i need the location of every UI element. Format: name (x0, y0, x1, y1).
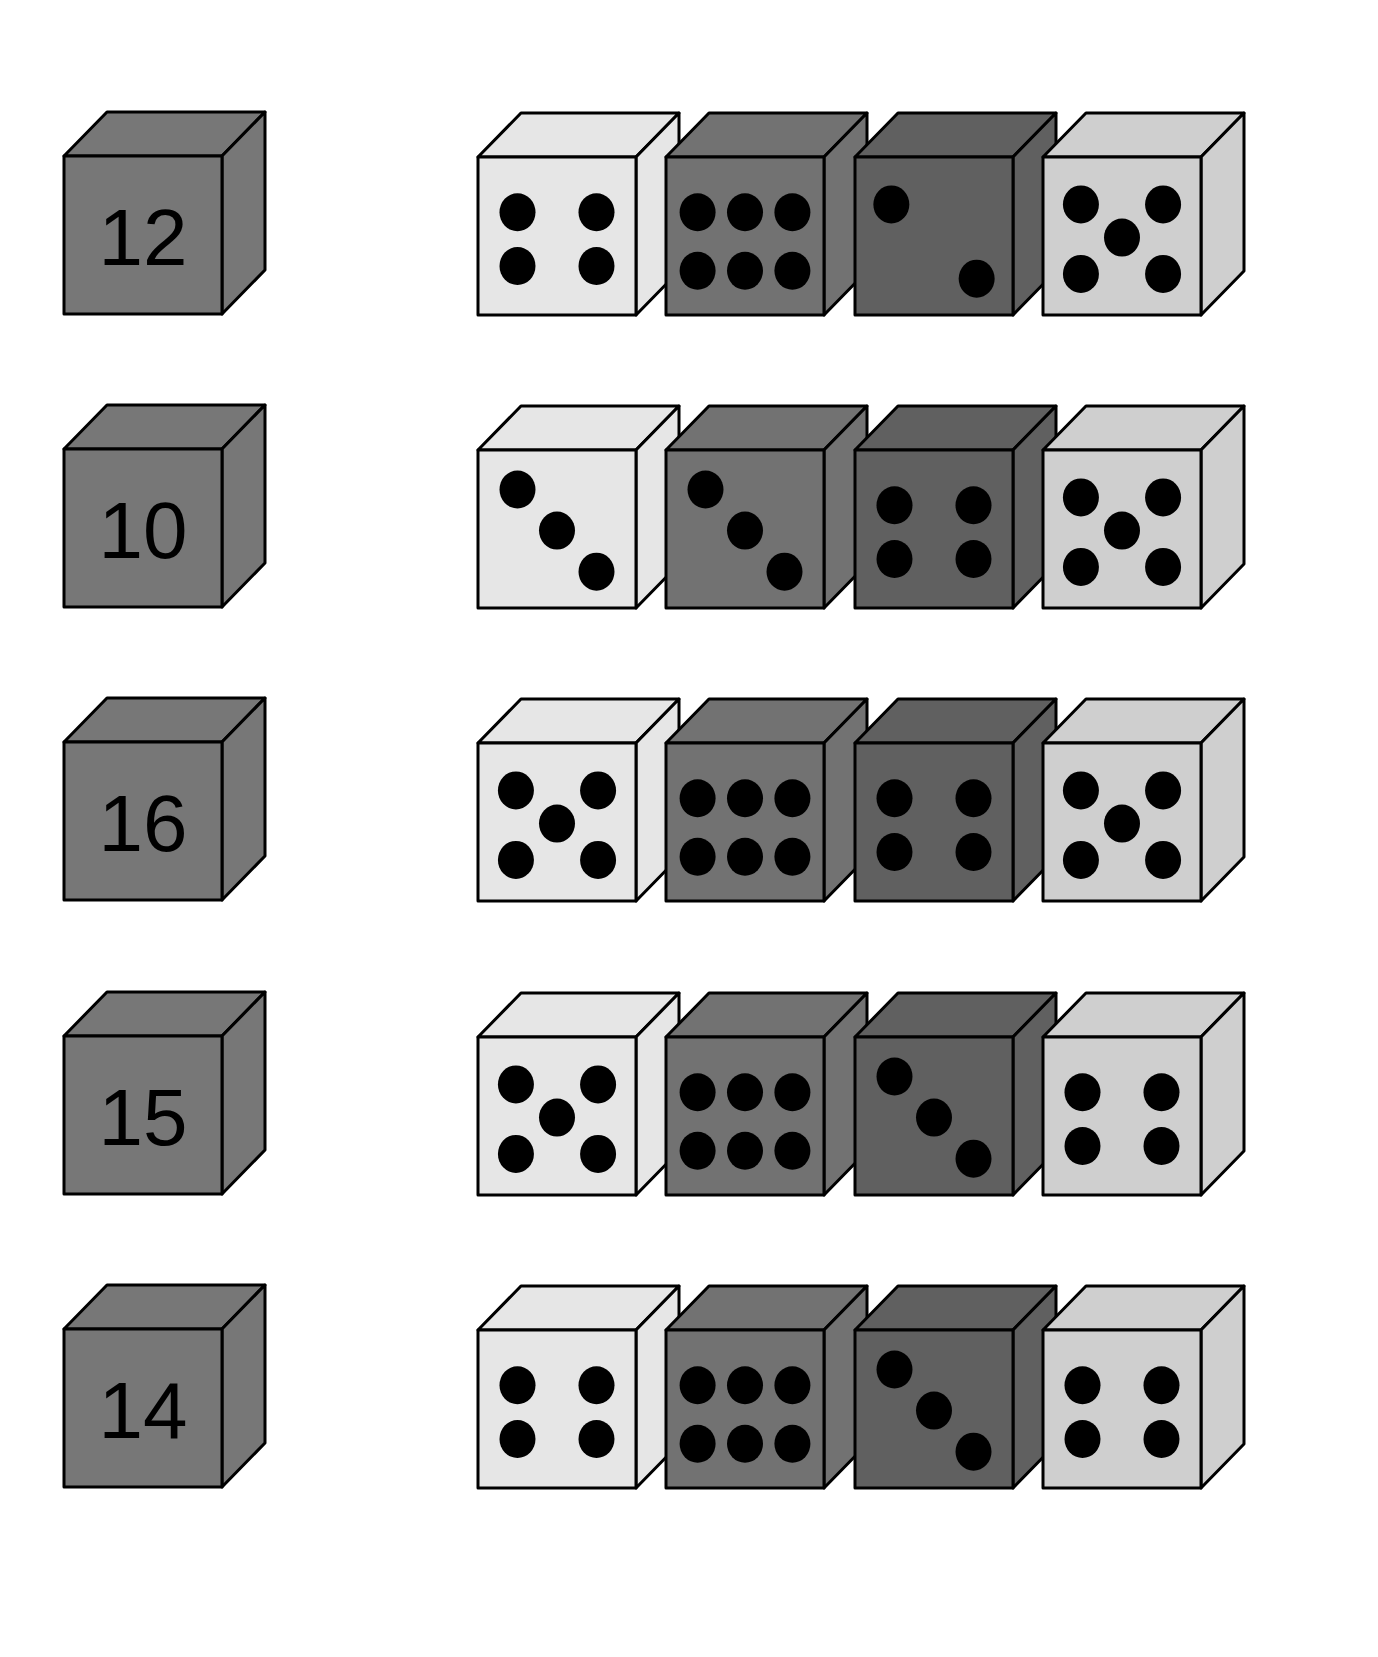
pip-icon (539, 512, 575, 550)
pip-icon (500, 1366, 536, 1404)
pip-icon (1145, 841, 1181, 879)
pip-icon (727, 1073, 763, 1111)
pip-icon (774, 779, 810, 817)
pip-icon (1145, 478, 1181, 516)
pip-icon (727, 512, 763, 550)
pip-icon (680, 1132, 716, 1170)
pip-icon (580, 771, 616, 809)
pip-icon (959, 260, 995, 298)
pip-icon (688, 471, 724, 509)
pip-icon (579, 1366, 615, 1404)
die-3 (664, 404, 869, 610)
total-label: 16 (64, 784, 222, 864)
total-label: 10 (64, 491, 222, 571)
pip-icon (1065, 1127, 1101, 1165)
pip-icon (1063, 255, 1099, 293)
die-5 (1041, 404, 1246, 610)
pip-icon (727, 1366, 763, 1404)
pip-icon (498, 841, 534, 879)
total-cube: 14 (62, 1283, 267, 1489)
pip-icon (680, 1425, 716, 1463)
pip-icon (877, 779, 913, 817)
pip-icon (916, 1099, 952, 1137)
total-cube: 10 (62, 403, 267, 609)
pip-icon (916, 1392, 952, 1430)
pip-icon (579, 553, 615, 591)
pip-icon (1144, 1127, 1180, 1165)
pip-icon (727, 252, 763, 290)
pip-icon (580, 1065, 616, 1103)
pip-icon (877, 1351, 913, 1389)
pip-icon (498, 1135, 534, 1173)
pip-icon (956, 1140, 992, 1178)
pip-icon (956, 779, 992, 817)
total-label: 15 (64, 1078, 222, 1158)
pip-icon (1145, 548, 1181, 586)
pip-icon (680, 1073, 716, 1111)
pip-icon (1145, 771, 1181, 809)
die-3 (853, 991, 1058, 1197)
pip-icon (1104, 512, 1140, 550)
pip-icon (877, 833, 913, 871)
die-5 (476, 697, 681, 903)
pip-icon (1063, 478, 1099, 516)
die-3 (853, 1284, 1058, 1490)
pip-icon (539, 805, 575, 843)
pip-icon (579, 247, 615, 285)
total-cube: 15 (62, 990, 267, 1196)
pip-icon (877, 486, 913, 524)
die-6 (664, 697, 869, 903)
pip-icon (1145, 255, 1181, 293)
pip-icon (498, 1065, 534, 1103)
die-6 (664, 1284, 869, 1490)
pip-icon (956, 1433, 992, 1471)
die-6 (664, 991, 869, 1197)
pip-icon (774, 1425, 810, 1463)
pip-icon (1144, 1366, 1180, 1404)
pip-icon (1104, 805, 1140, 843)
pip-icon (1065, 1073, 1101, 1111)
pip-icon (500, 1420, 536, 1458)
pip-icon (680, 1366, 716, 1404)
pip-icon (956, 486, 992, 524)
pip-icon (877, 540, 913, 578)
pip-icon (877, 1058, 913, 1096)
total-cube: 16 (62, 696, 267, 902)
pip-icon (579, 1420, 615, 1458)
pip-icon (539, 1099, 575, 1137)
pip-icon (774, 1366, 810, 1404)
pip-icon (727, 779, 763, 817)
die-5 (1041, 697, 1246, 903)
die-4 (853, 697, 1058, 903)
pip-icon (774, 252, 810, 290)
pip-icon (767, 553, 803, 591)
pip-icon (1063, 548, 1099, 586)
pip-icon (1065, 1420, 1101, 1458)
pip-icon (1065, 1366, 1101, 1404)
pip-icon (727, 1425, 763, 1463)
pip-icon (956, 833, 992, 871)
pip-icon (500, 471, 536, 509)
pip-icon (1144, 1420, 1180, 1458)
pip-icon (727, 838, 763, 876)
pip-icon (1063, 771, 1099, 809)
total-label: 14 (64, 1371, 222, 1451)
pip-icon (727, 1132, 763, 1170)
pip-icon (1063, 841, 1099, 879)
puzzle-row: 14 (0, 0, 1378, 230)
pip-icon (774, 1132, 810, 1170)
die-4 (1041, 991, 1246, 1197)
pip-icon (580, 1135, 616, 1173)
pip-icon (1144, 1073, 1180, 1111)
pip-icon (956, 540, 992, 578)
pip-icon (680, 838, 716, 876)
pip-icon (580, 841, 616, 879)
die-4 (853, 404, 1058, 610)
pip-icon (500, 247, 536, 285)
die-4 (476, 1284, 681, 1490)
die-4 (1041, 1284, 1246, 1490)
pip-icon (774, 1073, 810, 1111)
pip-icon (774, 838, 810, 876)
die-5 (476, 991, 681, 1197)
pip-icon (498, 771, 534, 809)
